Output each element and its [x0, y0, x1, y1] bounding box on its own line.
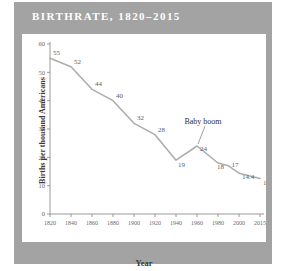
svg-text:1920: 1920	[149, 220, 161, 226]
svg-text:12.5: 12.5	[263, 179, 266, 187]
svg-text:1980: 1980	[212, 220, 224, 226]
svg-text:1900: 1900	[128, 220, 140, 226]
svg-text:52: 52	[74, 58, 82, 66]
svg-text:40: 40	[116, 92, 124, 100]
svg-text:55: 55	[53, 49, 61, 57]
svg-text:24: 24	[200, 145, 208, 153]
svg-text:1940: 1940	[170, 220, 182, 226]
svg-text:Baby boom: Baby boom	[184, 117, 222, 126]
svg-text:1960: 1960	[191, 220, 203, 226]
plot-area: 0102030405060 18201840186018801900192019…	[22, 34, 266, 254]
svg-text:1840: 1840	[65, 220, 77, 226]
data-point-labels: 5552444032281924181714.412.5	[53, 49, 266, 186]
svg-text:2015: 2015	[254, 220, 266, 226]
chart-title: BIRTHRATE, 1820–2015	[32, 10, 181, 22]
svg-text:19: 19	[178, 161, 186, 169]
svg-text:60: 60	[38, 40, 45, 47]
svg-text:2000: 2000	[233, 220, 245, 226]
svg-text:1860: 1860	[86, 220, 98, 226]
svg-text:1880: 1880	[107, 220, 119, 226]
svg-text:0: 0	[42, 210, 46, 217]
x-axis: 1820184018601880190019201940196019802000…	[44, 214, 266, 226]
x-axis-label: Year	[22, 258, 266, 268]
chart-annotations: Baby boom	[184, 117, 222, 144]
svg-text:17: 17	[232, 161, 240, 169]
svg-text:18: 18	[217, 163, 225, 171]
svg-text:28: 28	[158, 126, 166, 134]
svg-text:32: 32	[137, 114, 145, 122]
svg-text:44: 44	[95, 80, 103, 88]
data-series	[50, 58, 260, 178]
chart-figure: BIRTHRATE, 1820–2015 Births per thousand…	[0, 0, 286, 271]
svg-text:14.4: 14.4	[242, 173, 255, 181]
svg-text:1820: 1820	[44, 220, 56, 226]
plot-card: Births per thousand Americans Year 01020…	[22, 34, 266, 242]
y-axis-label: Births per thousand Americans	[38, 67, 47, 195]
